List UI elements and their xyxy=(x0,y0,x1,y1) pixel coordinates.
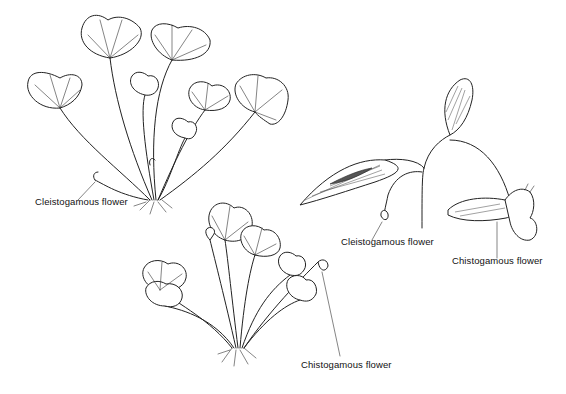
viola-plant-bottom-center xyxy=(143,203,340,366)
viola-plant-top-left xyxy=(28,15,289,214)
label-chistogamous-flower-bottom: Chistogamous flower xyxy=(301,359,392,370)
label-cleistogamous-flower-left: Cleistogamous flower xyxy=(35,196,128,207)
impatiens-stem-right xyxy=(300,79,537,258)
botanical-figure: Cleistogamous flower Chistogamous flower… xyxy=(0,0,566,394)
label-chistogamous-flower-right: Chistogamous flower xyxy=(452,255,543,266)
label-cleistogamous-flower-right: Cleistogamous flower xyxy=(341,236,434,247)
